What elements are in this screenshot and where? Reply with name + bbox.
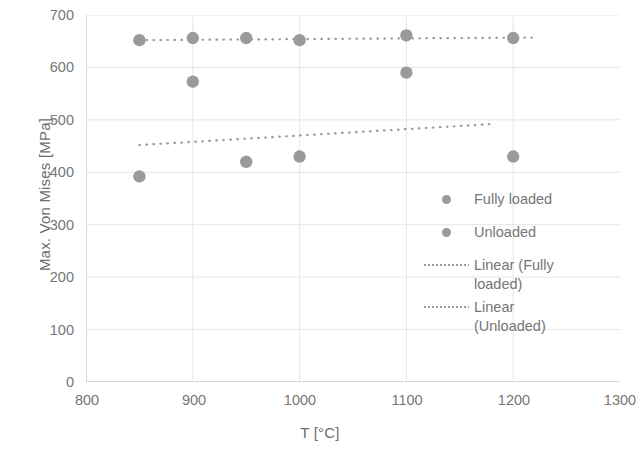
x-axis-title: T [°C] <box>0 424 640 441</box>
data-point-fully-loaded[interactable] <box>400 29 412 41</box>
legend-dotted-line-icon <box>418 256 474 274</box>
legend-item-linear-unloaded: Linear (Unloaded) <box>418 298 618 336</box>
legend-label-linear-fully-loaded: Linear (Fully loaded) <box>474 256 554 294</box>
legend-item-linear-fully-loaded: Linear (Fully loaded) <box>418 256 618 294</box>
y-tick-label-300: 300 <box>30 217 74 233</box>
y-tick-label-200: 200 <box>30 269 74 285</box>
data-point-fully-loaded[interactable] <box>133 34 145 46</box>
data-point-unloaded[interactable] <box>507 150 519 162</box>
data-point-unloaded[interactable] <box>400 66 412 78</box>
legend-label-fully-loaded: Fully loaded <box>474 190 552 209</box>
chart-legend: Fully loaded Unloaded Linear (Fully load… <box>418 190 618 340</box>
y-tick-label-0: 0 <box>30 374 74 390</box>
legend-item-unloaded: Unloaded <box>418 223 618 242</box>
data-point-fully-loaded[interactable] <box>507 32 519 44</box>
y-tick-label-500: 500 <box>30 112 74 128</box>
data-point-unloaded[interactable] <box>240 156 252 168</box>
data-point-fully-loaded[interactable] <box>293 34 305 46</box>
legend-label-unloaded: Unloaded <box>474 223 536 242</box>
legend-item-fully-loaded: Fully loaded <box>418 190 618 209</box>
trendline-linear-unloaded- <box>139 124 491 145</box>
data-point-fully-loaded[interactable] <box>187 32 199 44</box>
scatter-chart: Max. Von Mises [MPa] 700 600 500 400 300… <box>0 0 640 464</box>
data-point-unloaded[interactable] <box>293 150 305 162</box>
x-tick-label-1000: 1000 <box>270 392 330 408</box>
y-tick-label-400: 400 <box>30 164 74 180</box>
y-axis-title: Max. Von Mises [MPa] <box>36 65 53 325</box>
x-tick-label-1300: 1300 <box>590 392 640 408</box>
legend-dotted-line-icon <box>418 298 474 316</box>
y-tick-label-700: 700 <box>30 7 74 23</box>
x-tick-label-800: 800 <box>57 392 117 408</box>
x-tick-label-1100: 1100 <box>377 392 437 408</box>
data-point-unloaded[interactable] <box>133 170 145 182</box>
data-point-unloaded[interactable] <box>187 75 199 87</box>
y-tick-label-600: 600 <box>30 59 74 75</box>
x-tick-label-900: 900 <box>164 392 224 408</box>
legend-marker-dot-icon <box>418 190 474 208</box>
legend-label-linear-unloaded: Linear (Unloaded) <box>474 298 546 336</box>
legend-marker-dot-icon <box>418 223 474 241</box>
y-tick-label-100: 100 <box>30 322 74 338</box>
x-tick-label-1200: 1200 <box>484 392 544 408</box>
data-point-fully-loaded[interactable] <box>240 32 252 44</box>
